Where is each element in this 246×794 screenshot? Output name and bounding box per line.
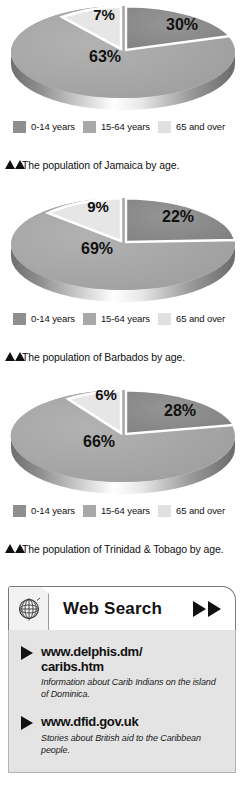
pie-label-age-0-14-trinidad-tobago: 28% — [164, 402, 196, 419]
web-search-result-url[interactable]: www.dfid.gov.uk — [41, 714, 138, 729]
pie-label-age-65-plus-jamaica: 7% — [93, 6, 115, 23]
legend-label-age-65-plus: 65 and over — [176, 313, 225, 324]
legend-label-age-65-plus: 65 and over — [176, 505, 225, 516]
pie-svg-jamaica: 30% 63% 7% — [0, 0, 246, 118]
pie-chart-barbados: 22% 69% 9% — [0, 192, 246, 310]
legend-label-age-65-plus: 65 and over — [176, 121, 225, 132]
legend-item-age-15-64: 15-64 years — [83, 121, 158, 133]
triangle-up-icon — [15, 340, 25, 361]
legend-label-age-0-14: 0-14 years — [31, 313, 75, 324]
triangle-up-icon — [15, 148, 25, 169]
arrow-right-icon[interactable] — [208, 601, 221, 617]
legend-swatch-age-15-64 — [83, 505, 96, 517]
legend-item-age-15-64: 15-64 years — [83, 505, 158, 517]
web-search-result-description: Stories about British aid to the Caribbe… — [41, 733, 223, 756]
web-search-result-link[interactable]: www.delphis.dm/ caribs.htm — [21, 644, 223, 674]
legend-item-age-65-plus: 65 and over — [158, 505, 233, 517]
caption-marker-barbados — [5, 340, 19, 354]
web-search-result-description: Information about Carib Indians on the i… — [41, 677, 223, 700]
legend-swatch-age-0-14 — [13, 313, 26, 325]
legend-swatch-age-65-plus — [158, 121, 171, 133]
infographic-page: 30% 63% 7% 0-14 years 15-64 years 65 and… — [0, 0, 246, 794]
caption-text-trinidad-tobago: The population of Trinidad & Tobago by a… — [22, 543, 224, 555]
caption-barbados: The population of Barbados by age. — [0, 351, 246, 365]
legend-item-age-0-14: 0-14 years — [13, 313, 83, 325]
chart-block-jamaica: 30% 63% 7% 0-14 years 15-64 years 65 and… — [0, 0, 246, 173]
caption-marker-trinidad-tobago — [5, 532, 19, 546]
legend-label-age-15-64: 15-64 years — [101, 505, 150, 516]
globe-icon — [9, 587, 49, 630]
legend-swatch-age-0-14 — [13, 505, 26, 517]
arrow-right-icon — [21, 646, 33, 660]
web-search-result[interactable]: www.dfid.gov.uk Stories about British ai… — [21, 714, 223, 756]
pie-label-age-15-64-trinidad-tobago: 66% — [83, 433, 115, 450]
pie-label-age-15-64-barbados: 69% — [81, 240, 113, 257]
caption-marker-jamaica — [5, 148, 19, 162]
legend-swatch-age-15-64 — [83, 121, 96, 133]
caption-text-jamaica: The population of Jamaica by age. — [22, 159, 179, 171]
web-search-result-url-line2: caribs.htm — [41, 659, 104, 674]
legend-swatch-age-15-64 — [83, 313, 96, 325]
legend-item-age-0-14: 0-14 years — [13, 505, 83, 517]
legend-item-age-65-plus: 65 and over — [158, 313, 233, 325]
caption-trinidad-tobago: The population of Trinidad & Tobago by a… — [0, 543, 246, 557]
pie-label-age-0-14-barbados: 22% — [162, 208, 194, 225]
triangle-up-icon — [5, 340, 15, 361]
caption-jamaica: The population of Jamaica by age. — [0, 159, 246, 173]
legend-item-age-0-14: 0-14 years — [13, 121, 83, 133]
legend-swatch-age-65-plus — [158, 505, 171, 517]
pie-label-age-65-plus-trinidad-tobago: 6% — [95, 386, 117, 403]
pie-label-age-65-plus-barbados: 9% — [87, 198, 109, 215]
triangle-up-icon — [5, 148, 15, 169]
legend-barbados: 0-14 years 15-64 years 65 and over — [0, 310, 246, 327]
chart-block-barbados: 22% 69% 9% 0-14 years 15-64 years 65 and… — [0, 192, 246, 365]
web-search-result-url[interactable]: www.delphis.dm/ caribs.htm — [41, 644, 142, 674]
triangle-up-icon — [5, 532, 15, 553]
web-search-result[interactable]: www.delphis.dm/ caribs.htm Information a… — [21, 644, 223, 700]
pie-svg-barbados: 22% 69% 9% — [0, 192, 246, 310]
web-search-next-arrows[interactable] — [193, 601, 221, 617]
pie-chart-trinidad-tobago: 28% 66% 6% — [0, 384, 246, 502]
legend-swatch-age-0-14 — [13, 121, 26, 133]
globe-icon-svg — [16, 596, 42, 622]
web-search-result-link[interactable]: www.dfid.gov.uk — [21, 714, 223, 730]
chart-block-trinidad-tobago: 28% 66% 6% 0-14 years 15-64 years 65 and… — [0, 384, 246, 557]
legend-item-age-65-plus: 65 and over — [158, 121, 233, 133]
pie-label-age-0-14-jamaica: 30% — [166, 16, 198, 33]
legend-item-age-15-64: 15-64 years — [83, 313, 158, 325]
pie-chart-jamaica: 30% 63% 7% — [0, 0, 246, 118]
legend-trinidad-tobago: 0-14 years 15-64 years 65 and over — [0, 502, 246, 519]
pie-label-age-15-64-jamaica: 63% — [89, 48, 121, 65]
triangle-up-icon — [15, 532, 25, 553]
arrow-right-icon[interactable] — [193, 601, 206, 617]
legend-label-age-0-14: 0-14 years — [31, 505, 75, 516]
arrow-right-icon — [21, 716, 33, 730]
web-search-results: www.delphis.dm/ caribs.htm Information a… — [8, 630, 236, 773]
legend-jamaica: 0-14 years 15-64 years 65 and over — [0, 118, 246, 135]
legend-swatch-age-65-plus — [158, 313, 171, 325]
web-search-result-url-line1: www.delphis.dm/ — [41, 644, 142, 659]
legend-label-age-0-14: 0-14 years — [31, 121, 75, 132]
web-search-header: Web Search — [8, 586, 236, 630]
caption-text-barbados: The population of Barbados by age. — [22, 351, 185, 363]
legend-label-age-15-64: 15-64 years — [101, 121, 150, 132]
pie-svg-trinidad-tobago: 28% 66% 6% — [0, 384, 246, 502]
web-search-title: Web Search — [63, 599, 162, 619]
web-search-panel: Web Search www.delphis.dm/ caribs.htm In… — [8, 586, 236, 773]
legend-label-age-15-64: 15-64 years — [101, 313, 150, 324]
